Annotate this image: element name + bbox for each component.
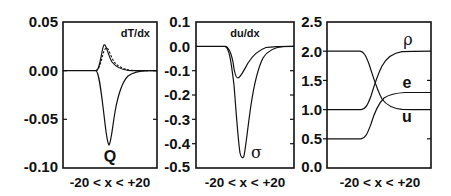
panel-left: 0.05 0.00 -0.05 -0.10 dT/dx Q -20 < x < … (24, 13, 157, 190)
plot-frame-right (327, 22, 431, 168)
annotation-dTdx: dT/dx (121, 27, 151, 39)
y-tick-label: 0.05 (29, 13, 58, 30)
curve-dTdx-solid (63, 45, 157, 71)
panel-middle: 0.1 0.0 -0.1 -0.2 -0.3 -0.4 -0.5 du/dx σ… (164, 13, 294, 190)
curve-dTdx-dashed (96, 48, 148, 71)
y-tick-label: 1.5 (301, 72, 322, 89)
y-tick-label: 0.0 (301, 158, 322, 175)
curve-label-e: e (403, 74, 412, 91)
y-tick-label: -0.4 (164, 135, 191, 152)
y-tick-label: 1.0 (301, 101, 322, 118)
curve-u (327, 93, 431, 139)
y-tick-label: -0.05 (24, 110, 58, 127)
curve-rho (327, 51, 431, 109)
y-tick-label: -0.1 (164, 62, 190, 79)
curve-sigma (225, 46, 294, 157)
plot-frame-left (63, 22, 157, 168)
curve-label-sigma: σ (251, 143, 262, 162)
y-tick-label: 2.5 (301, 13, 322, 30)
y-tick-label: -0.10 (24, 158, 58, 175)
y-tick-label: -0.3 (164, 111, 190, 128)
figure: 0.05 0.00 -0.05 -0.10 dT/dx Q -20 < x < … (0, 0, 451, 196)
y-tick-label: 2.0 (301, 43, 322, 60)
x-axis-label-right: -20 < x < +20 (340, 175, 421, 190)
panel-right: 2.5 2.0 1.5 1.0 0.5 0.0 ρ e u -20 < x < … (301, 13, 431, 190)
curve-dudx (196, 46, 294, 78)
x-axis-label-left: -20 < x < +20 (70, 175, 151, 190)
curve-Q (96, 71, 157, 145)
curve-label-Q: Q (104, 148, 116, 165)
y-tick-label: -0.2 (164, 86, 190, 103)
y-tick-label: 0.0 (169, 38, 190, 55)
y-tick-label: 0.1 (169, 13, 190, 30)
y-tick-label: 0.00 (29, 62, 58, 79)
y-tick-label: -0.5 (164, 158, 190, 175)
annotation-dudx: du/dx (230, 27, 260, 39)
curve-label-u: u (402, 108, 412, 125)
curve-label-rho: ρ (403, 30, 412, 49)
x-axis-label-middle: -20 < x < +20 (205, 175, 286, 190)
curve-e (327, 51, 431, 109)
y-tick-label: 0.5 (301, 130, 322, 147)
